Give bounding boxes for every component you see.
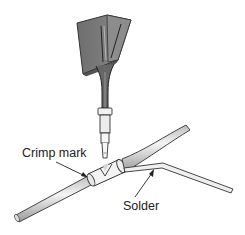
soldering-iron-shaft bbox=[96, 64, 114, 108]
soldering-iron-tip bbox=[98, 108, 112, 158]
solder-wire bbox=[124, 163, 233, 193]
crimp-mark-arrow bbox=[56, 162, 88, 178]
crimp-mark-label: Crimp mark bbox=[22, 147, 87, 160]
solder-arrow bbox=[135, 169, 154, 197]
solder-label: Solder bbox=[123, 200, 159, 213]
crimp-sleeve bbox=[86, 158, 128, 187]
wire-left bbox=[13, 176, 93, 222]
